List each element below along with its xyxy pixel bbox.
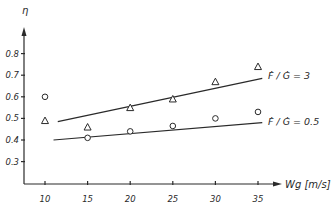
y-tick-label: 0.5 xyxy=(5,113,19,123)
chart: 0.30.40.50.60.70.8101520253035ηWg [m/s]Ḟ… xyxy=(0,0,331,210)
circle-marker xyxy=(85,135,91,141)
triangle-marker xyxy=(255,63,262,69)
fit-line-f-g-3 xyxy=(58,78,262,121)
circle-marker xyxy=(42,94,48,100)
x-tick-label: 20 xyxy=(125,194,136,204)
fit-lines xyxy=(54,78,263,140)
x-axis-label: Wg [m/s] xyxy=(285,179,331,190)
y-tick-label: 0.3 xyxy=(5,157,19,167)
y-tick-label: 0.8 xyxy=(5,49,19,59)
circle-marker xyxy=(127,129,133,135)
x-tick-label: 15 xyxy=(82,194,93,204)
series-label-f-g-3: Ḟ / Ġ = 3 xyxy=(268,70,310,81)
x-tick-label: 30 xyxy=(210,194,221,204)
y-axis-label: η xyxy=(22,5,28,16)
labels: 0.30.40.50.60.70.8101520253035ηWg [m/s]Ḟ… xyxy=(5,5,330,204)
y-axis-arrow-icon xyxy=(22,27,27,36)
triangle-marker xyxy=(212,78,219,85)
x-tick-label: 35 xyxy=(253,194,264,204)
series-label-f-g-0-5: Ḟ / Ġ = 0.5 xyxy=(268,116,319,127)
axes xyxy=(21,27,282,187)
x-tick-label: 25 xyxy=(167,194,178,204)
circle-marker xyxy=(213,116,219,122)
x-tick-label: 10 xyxy=(40,194,51,204)
circle-marker xyxy=(255,109,261,115)
y-tick-label: 0.7 xyxy=(5,70,19,80)
triangle-marker xyxy=(42,117,49,124)
circle-marker xyxy=(170,123,176,129)
y-tick-label: 0.6 xyxy=(5,92,19,102)
x-axis-arrow-icon xyxy=(273,182,282,187)
y-tick-label: 0.4 xyxy=(5,135,19,145)
triangle-marker xyxy=(84,124,91,130)
